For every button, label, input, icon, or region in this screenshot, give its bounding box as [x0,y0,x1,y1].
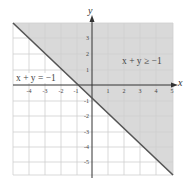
svg-text:4: 4 [155,88,158,94]
svg-text:2: 2 [86,51,89,57]
svg-text:-2: -2 [59,88,64,94]
svg-text:3: 3 [139,88,142,94]
svg-text:1: 1 [107,88,110,94]
svg-text:-2: -2 [84,113,89,119]
inequality-label: x + y ≥ −1 [122,56,162,66]
svg-text:1: 1 [86,67,89,73]
y-axis-label: y [87,5,93,16]
svg-text:-3: -3 [43,88,48,94]
svg-text:-3: -3 [84,129,89,135]
svg-text:-4: -4 [84,144,89,150]
svg-text:-1: -1 [74,88,79,94]
svg-text:-1: -1 [84,98,89,104]
svg-text:3: 3 [86,35,89,41]
x-axis-label: x [177,77,183,88]
boundary-equation-label: x + y = −1 [16,73,56,83]
svg-text:2: 2 [123,88,126,94]
svg-text:-4: -4 [27,88,32,94]
x-axis-arrow-icon [171,83,178,88]
y-axis-arrow-icon [90,15,95,22]
svg-text:5: 5 [171,88,174,94]
inequality-graph: x y -4 -3 -2 -1 1 2 3 4 5 3 2 1 -1 -2 -3… [0,0,187,189]
svg-text:-5: -5 [84,159,89,165]
